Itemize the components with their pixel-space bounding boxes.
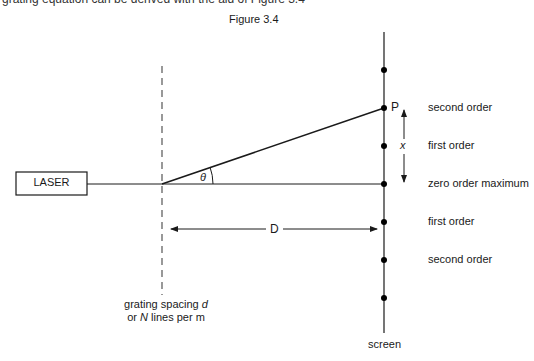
d-label: D [270, 222, 279, 236]
x-label: x [400, 139, 406, 151]
grating-text-3: lines per m [148, 311, 205, 323]
order-label-zero: zero order maximum [428, 177, 529, 189]
screen-label: screen [368, 338, 401, 350]
order-label-first-upper: first order [428, 139, 474, 151]
angle-arc [210, 167, 213, 184]
grating-label: grating spacing d or N lines per m [121, 298, 211, 324]
point-p-label: P [391, 100, 399, 114]
grating-var-d: d [202, 298, 208, 310]
grating-text-1: grating spacing [124, 298, 202, 310]
order-label-first-lower: first order [428, 215, 474, 227]
angle-label: θ [200, 171, 206, 183]
order-label-second-lower: second order [428, 253, 492, 265]
grating-text-2: or [127, 311, 140, 323]
grating-var-n: N [140, 311, 148, 323]
order-label-second-upper: second order [428, 101, 492, 113]
diffracted-ray [162, 108, 384, 184]
laser-label: LASER [16, 176, 87, 188]
